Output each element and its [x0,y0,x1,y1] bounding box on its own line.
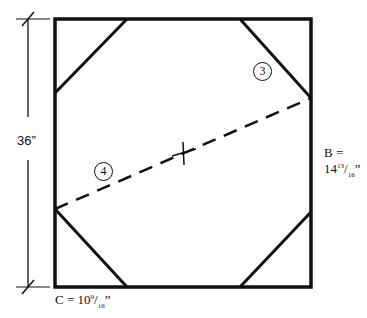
diagram-canvas: 36” B = 1413/16” C = 109/16” 3 4 [0,0,367,318]
callout-3: 3 [253,62,272,81]
callout-4: 4 [94,162,113,181]
b-label-line2: 1413/16” [324,162,360,179]
c-label: C = 109/16” [55,293,110,310]
b-label-numerator: 13 [337,162,344,170]
b-label-denominator: 16 [348,171,355,179]
c-label-prefix: C = 10 [55,292,91,307]
c-label-suffix: ” [105,292,111,307]
c-label-denominator: 16 [98,302,105,310]
height-dimension-line [16,12,50,294]
diagram-drawing [0,0,367,318]
b-label-suffix: ” [355,161,361,176]
height-label: 36” [17,132,36,149]
b-label-whole: 14 [324,161,337,176]
c-label-numerator: 9 [91,293,95,301]
b-label-line1: B = [324,146,343,159]
center-mark-icon [172,142,196,165]
